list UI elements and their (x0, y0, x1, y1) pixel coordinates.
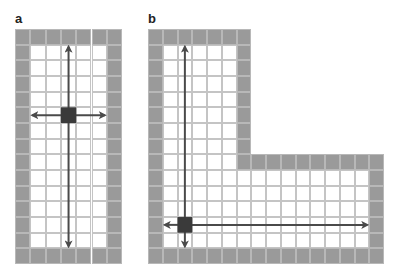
agent-square (61, 107, 76, 123)
arrow-overlay (0, 0, 399, 279)
agent-square (178, 217, 193, 233)
